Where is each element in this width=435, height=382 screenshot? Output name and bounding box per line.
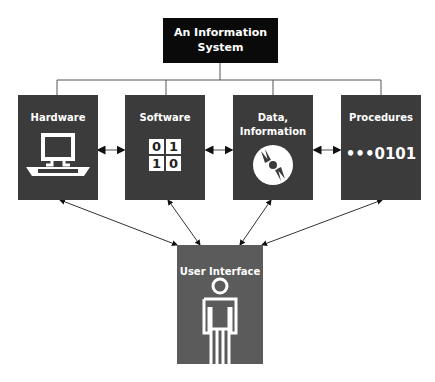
procedures-label: Procedures bbox=[341, 111, 421, 125]
software-box: Software 0 1 1 0 bbox=[125, 95, 205, 200]
data-label-line-1: Data, bbox=[233, 111, 313, 125]
disc-icon bbox=[251, 143, 295, 187]
software-label: Software bbox=[125, 111, 205, 125]
information-system-title-box: An Information System bbox=[163, 18, 278, 63]
data-information-box: Data, Information bbox=[233, 95, 313, 200]
title-line-1: An Information bbox=[163, 25, 278, 40]
person-icon bbox=[200, 277, 240, 364]
hardware-box: Hardware bbox=[18, 95, 98, 200]
binary-grid-icon: 0 1 1 0 bbox=[149, 139, 181, 171]
procedures-box: Procedures •••0101 bbox=[341, 95, 421, 200]
title-line-2: System bbox=[163, 40, 278, 55]
data-label-line-2: Information bbox=[233, 125, 313, 139]
hardware-label: Hardware bbox=[18, 111, 98, 125]
sequence-icon: •••0101 bbox=[341, 147, 421, 161]
computer-icon bbox=[24, 131, 92, 181]
user-interface-box: User Interface bbox=[177, 245, 263, 364]
